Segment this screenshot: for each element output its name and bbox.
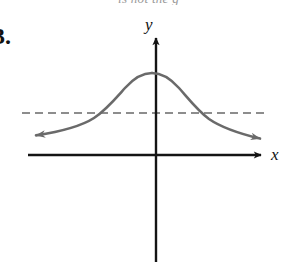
figure-root: is not the g 3. y x — [0, 0, 289, 270]
x-axis-label: x — [271, 146, 279, 163]
curve-right-branch — [152, 73, 260, 139]
graph-canvas — [0, 0, 289, 270]
y-axis-label: y — [145, 16, 153, 33]
curve-left-branch — [36, 73, 152, 135]
